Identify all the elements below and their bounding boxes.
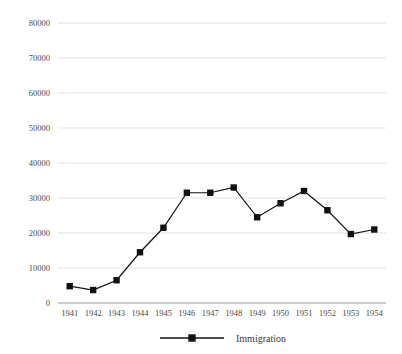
y-tick-label: 50000 <box>29 123 50 133</box>
x-tick-label: 1945 <box>155 308 172 318</box>
y-tick-label: 20000 <box>29 228 50 238</box>
y-tick-label: 70000 <box>29 53 50 63</box>
series-line-immigration <box>70 188 375 291</box>
data-point-marker <box>231 184 237 190</box>
y-axis-tick-labels: 0100002000030000400005000060000700008000… <box>29 18 50 308</box>
y-tick-label: 40000 <box>29 158 50 168</box>
chart-legend: Immigration <box>160 333 286 344</box>
x-tick-label: 1944 <box>132 308 150 318</box>
data-point-marker <box>184 190 190 196</box>
data-point-marker <box>207 190 213 196</box>
data-point-marker <box>324 207 330 213</box>
x-tick-label: 1954 <box>366 308 384 318</box>
x-tick-label: 1948 <box>225 308 242 318</box>
y-tick-label: 10000 <box>29 263 50 273</box>
x-tick-label: 1946 <box>178 308 195 318</box>
y-tick-label: 0 <box>46 298 50 308</box>
data-point-marker <box>67 283 73 289</box>
x-tick-label: 1949 <box>249 308 266 318</box>
x-tick-label: 1952 <box>319 308 336 318</box>
gridlines <box>58 23 386 268</box>
data-point-marker <box>160 225 166 231</box>
data-point-marker <box>301 188 307 194</box>
x-tick-label: 1951 <box>296 308 313 318</box>
chart-canvas: 0100002000030000400005000060000700008000… <box>0 0 402 354</box>
data-point-marker <box>137 249 143 255</box>
x-tick-label: 1942 <box>85 308 102 318</box>
y-tick-label: 80000 <box>29 18 50 28</box>
x-tick-label: 1950 <box>272 308 289 318</box>
legend-label-immigration: Immigration <box>236 333 286 344</box>
x-axis-tick-labels: 1941194219431944194519461947194819491950… <box>61 308 383 318</box>
data-point-marker <box>348 231 354 237</box>
legend-square-marker <box>188 334 195 341</box>
x-tick-label: 1953 <box>342 308 359 318</box>
data-point-marker <box>90 287 96 293</box>
data-point-marker <box>113 277 119 283</box>
x-tick-label: 1941 <box>61 308 78 318</box>
immigration-line-chart: 0100002000030000400005000060000700008000… <box>0 0 402 354</box>
series-immigration <box>67 184 378 293</box>
x-tick-label: 1943 <box>108 308 125 318</box>
y-tick-label: 60000 <box>29 88 50 98</box>
data-point-marker <box>254 214 260 220</box>
y-tick-label: 30000 <box>29 193 50 203</box>
data-point-marker <box>371 226 377 232</box>
x-tick-label: 1947 <box>202 308 219 318</box>
data-point-marker <box>277 200 283 206</box>
